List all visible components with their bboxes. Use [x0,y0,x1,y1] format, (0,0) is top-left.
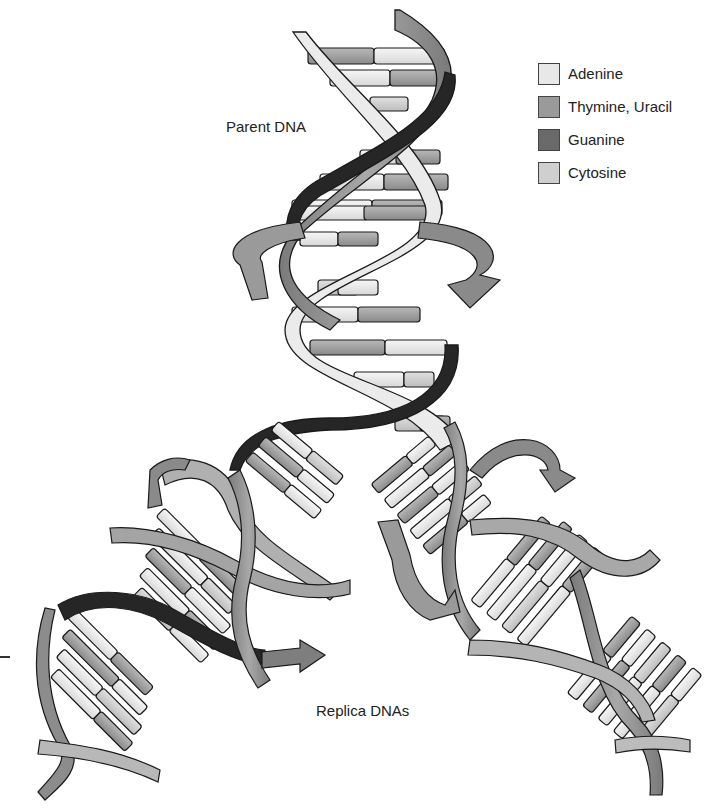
legend-label: Thymine, Uracil [568,98,672,115]
guanine-swatch-icon [538,129,560,151]
adenine-swatch-icon [538,63,560,85]
right-replica [371,422,702,795]
legend-item-adenine: Adenine [538,57,672,90]
legend-label: Adenine [568,65,623,82]
legend-label: Guanine [568,131,625,148]
legend-label: Cytosine [568,164,626,181]
legend-item-cytosine: Cytosine [538,156,672,189]
thymine-uracil-swatch-icon [538,96,560,118]
legend-item-thymine-uracil: Thymine, Uracil [538,90,672,123]
replica-dnas-label: Replica DNAs [316,702,409,719]
legend-item-guanine: Guanine [538,123,672,156]
legend: Adenine Thymine, Uracil Guanine Cytosine [538,57,672,189]
cytosine-swatch-icon [538,162,560,184]
left-replica [29,421,350,800]
parent-dna-label: Parent DNA [226,118,306,135]
